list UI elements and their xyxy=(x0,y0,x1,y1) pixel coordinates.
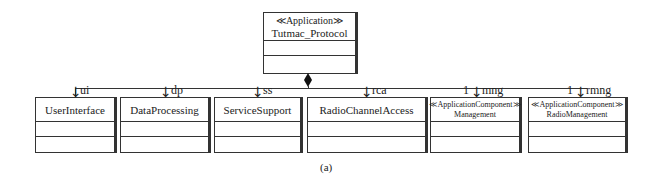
class-header: DataProcessing xyxy=(121,98,208,122)
role-dp: dp xyxy=(171,83,183,98)
class-name: Management xyxy=(454,110,496,120)
class-name: ServiceSupport xyxy=(224,104,292,116)
composition-diamond-icon xyxy=(303,73,313,87)
stereotype-label: ≪Application≫ xyxy=(276,15,343,27)
class-header: UserInterface xyxy=(36,98,114,122)
role-rca: rca xyxy=(372,83,387,98)
attributes-compartment xyxy=(308,122,425,137)
role-ss: ss xyxy=(263,83,272,98)
class-management: ≪ApplicationComponent≫ Management xyxy=(430,97,522,153)
connector-stem xyxy=(308,86,309,89)
class-tutmac-protocol: ≪Application≫ Tutmac_Protocol xyxy=(263,12,358,74)
stereotype-label: ≪ApplicationComponent≫ xyxy=(531,100,622,110)
class-service-support: ServiceSupport xyxy=(214,97,303,153)
figure-caption: (a) xyxy=(320,161,332,173)
class-name: UserInterface xyxy=(45,104,105,116)
attributes-compartment xyxy=(121,122,208,137)
class-name: DataProcessing xyxy=(130,104,198,116)
attributes-compartment xyxy=(431,122,519,137)
class-name: RadioChannelAccess xyxy=(319,104,413,116)
class-header: ≪ApplicationComponent≫ Management xyxy=(431,98,519,122)
stereotype-label: ≪ApplicationComponent≫ xyxy=(429,100,520,110)
class-header: RadioChannelAccess xyxy=(308,98,425,122)
class-header: ServiceSupport xyxy=(215,98,300,122)
attributes-compartment xyxy=(36,122,114,137)
class-radio-channel-access: RadioChannelAccess xyxy=(307,97,428,153)
role-mng: mng xyxy=(482,83,503,98)
class-radio-management: ≪ApplicationComponent≫ RadioManagement xyxy=(528,97,628,153)
class-name: Tutmac_Protocol xyxy=(272,27,348,39)
attributes-compartment xyxy=(264,41,355,56)
attributes-compartment xyxy=(529,122,625,137)
class-name: RadioManagement xyxy=(547,110,608,120)
multiplicity-rmng: 1 xyxy=(567,83,573,98)
attributes-compartment xyxy=(215,122,300,137)
class-header: ≪Application≫ Tutmac_Protocol xyxy=(264,13,355,41)
composition-connector xyxy=(75,88,587,89)
class-header: ≪ApplicationComponent≫ RadioManagement xyxy=(529,98,625,122)
role-ui: ui xyxy=(80,83,89,98)
role-rmng: rmng xyxy=(586,83,611,98)
class-user-interface: UserInterface xyxy=(35,97,117,153)
multiplicity-mng: 1 xyxy=(463,83,469,98)
class-data-processing: DataProcessing xyxy=(120,97,211,153)
